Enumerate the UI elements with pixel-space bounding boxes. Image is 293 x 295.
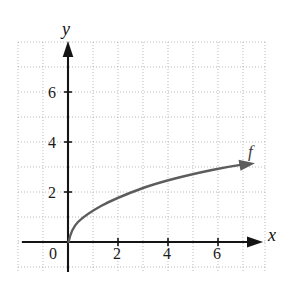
grid-lines	[18, 42, 265, 272]
x-axis	[22, 237, 263, 248]
tick-label-origin: 0	[49, 246, 57, 262]
graph-figure: y x f 0 2 4 6 2 4 6	[0, 0, 293, 295]
axis-tick-marks	[64, 92, 218, 246]
y-axis-label: y	[62, 20, 70, 38]
y-tick-label-6: 6	[48, 85, 56, 101]
x-axis-label: x	[268, 226, 276, 244]
y-axis	[63, 41, 74, 272]
y-tick-label-2: 2	[48, 185, 56, 201]
function-curve	[69, 160, 256, 242]
x-tick-label-4: 4	[163, 246, 171, 262]
curve-label-f: f	[248, 143, 253, 160]
x-tick-label-6: 6	[213, 246, 221, 262]
y-tick-label-4: 4	[48, 135, 56, 151]
x-tick-label-2: 2	[113, 246, 121, 262]
